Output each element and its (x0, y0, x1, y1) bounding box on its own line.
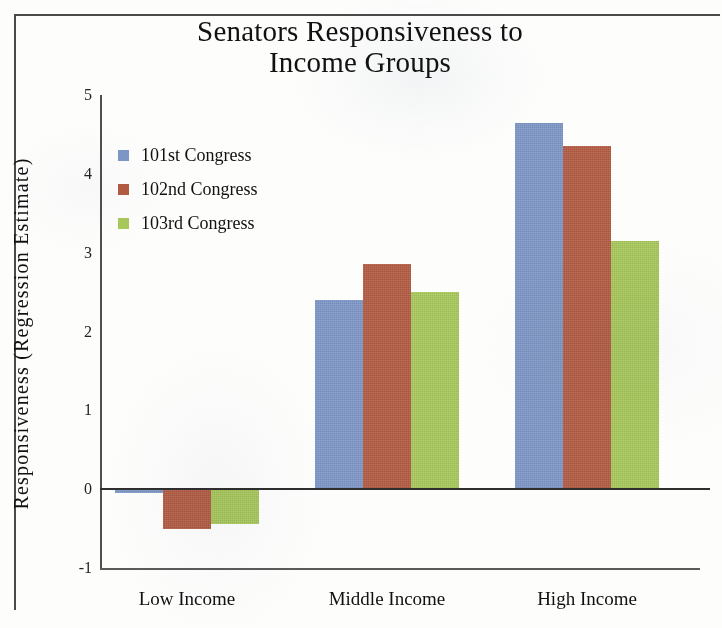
bar-high-income-102nd-congress (563, 146, 611, 489)
y-axis-tick-2: 2 (0, 323, 92, 341)
zero-reference-line (100, 488, 710, 490)
bar-middle-income-102nd-congress (363, 264, 411, 489)
legend-swatch-icon-1 (118, 150, 129, 161)
chart-title-line-2: Income Groups (60, 47, 660, 78)
legend-item-102nd-congress: 102nd Congress (118, 172, 258, 206)
bar-middle-income-103rd-congress (411, 292, 459, 489)
chart-title-line-1: Senators Responsiveness to (60, 16, 660, 47)
bar-high-income-103rd-congress (611, 241, 659, 489)
bar-middle-income-101st-congress (315, 300, 363, 489)
bar-low-income-102nd-congress (163, 489, 211, 528)
legend-item-103rd-congress: 103rd Congress (118, 206, 258, 240)
legend-label: 101st Congress (141, 145, 252, 166)
legend-label: 103rd Congress (141, 213, 255, 234)
y-axis-tick-3: 3 (0, 244, 92, 262)
x-axis-label-low-income: Low Income (87, 588, 287, 610)
chart-legend: 101st Congress102nd Congress103rd Congre… (118, 138, 258, 240)
legend-item-101st-congress: 101st Congress (118, 138, 258, 172)
y-axis-tick-5: 5 (0, 86, 92, 104)
x-axis-line (100, 568, 700, 570)
y-axis-tick--1: -1 (0, 559, 92, 577)
y-axis-tick-1: 1 (0, 401, 92, 419)
chart-title: Senators Responsiveness to Income Groups (60, 16, 660, 77)
legend-swatch-icon-2 (118, 184, 129, 195)
legend-label: 102nd Congress (141, 179, 258, 200)
y-axis-tick-0: 0 (0, 480, 92, 498)
bar-low-income-103rd-congress (211, 489, 259, 524)
x-axis-label-middle-income: Middle Income (287, 588, 487, 610)
scanned-chart-page: Senators Responsiveness to Income Groups… (0, 0, 722, 628)
bar-high-income-101st-congress (515, 123, 563, 490)
legend-swatch-icon-3 (118, 218, 129, 229)
x-axis-label-high-income: High Income (487, 588, 687, 610)
y-axis-tick-4: 4 (0, 165, 92, 183)
